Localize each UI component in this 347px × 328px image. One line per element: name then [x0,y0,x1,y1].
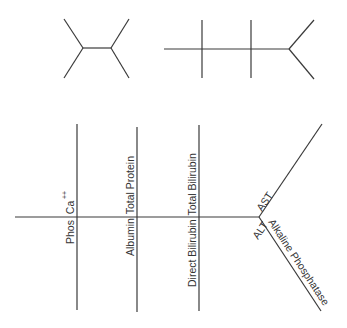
lower-branch-line [259,217,321,311]
branch-line [111,48,129,78]
label-alkaline-phosphatase: Alkaline Phosphatase [266,216,332,307]
label-direct-bilirubin: Direct Bilirubin [186,219,198,287]
label-albumin-total-protein: Albumin Total Protein [124,156,136,256]
branch-line [64,48,83,78]
label-bilirubin: Direct Bilirubin Total Bilirubin [186,153,198,287]
label-phos: Phos [64,220,76,244]
branch-line [289,49,314,79]
label-albumin: Albumin [124,218,136,256]
cbc-fishbone [64,19,129,78]
label-ca: Ca [64,201,76,215]
branch-line [289,20,314,49]
label-ast: AST [254,189,276,213]
label-ca-superscript: ++ [61,191,68,199]
label-phos-ca: Phos Ca [64,201,76,244]
lab-fishbone-diagram: Phos Ca ++ Albumin Total Protein Direct … [0,0,347,328]
branch-line [64,19,83,48]
bmp-fishbone [164,20,314,79]
main-fishbone: Phos Ca ++ Albumin Total Protein Direct … [15,124,332,312]
label-total-protein: Total Protein [124,156,136,215]
branch-line [111,19,129,48]
label-total-bilirubin: Total Bilirubin [186,153,198,216]
